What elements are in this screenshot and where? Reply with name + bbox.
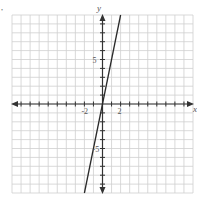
corner-mark: , [1,3,3,12]
y-tick-label: -5 [93,145,100,154]
x-tick-label: 2 [118,107,122,116]
y-tick-label: 5 [93,56,97,65]
x-axis-label: x [192,104,197,114]
y-axis-label: y [96,3,101,13]
coordinate-plane: -225-5 , y x [0,0,197,200]
x-tick-label: -2 [81,107,88,116]
